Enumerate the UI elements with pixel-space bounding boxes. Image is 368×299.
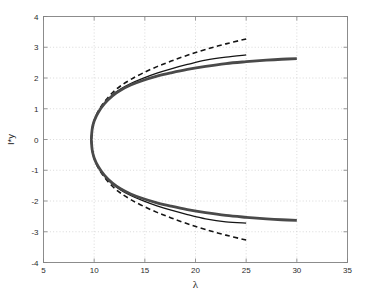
figure-container: 5101520253035 -4-3-2-101234 λ I*y <box>0 0 368 299</box>
x-tick-label: 30 <box>292 266 301 275</box>
x-tick-label: 10 <box>90 266 99 275</box>
y-tick-label: 0 <box>34 136 39 145</box>
y-tick-label: -4 <box>31 259 39 268</box>
chart-canvas: 5101520253035 -4-3-2-101234 λ I*y <box>0 0 368 299</box>
y-tick-label: 4 <box>34 13 39 22</box>
y-tick-label: -2 <box>31 197 39 206</box>
y-tick-label: -1 <box>31 166 39 175</box>
x-tick-label: 15 <box>140 266 149 275</box>
x-tick-label: 5 <box>41 266 46 275</box>
y-tick-label: -3 <box>31 228 39 237</box>
x-axis-title: λ <box>193 278 199 290</box>
y-tick-label: 2 <box>34 74 39 83</box>
x-tick-label: 20 <box>191 266 200 275</box>
y-axis-title: I*y <box>5 134 16 145</box>
y-tick-label: 3 <box>34 43 39 52</box>
y-tick-label: 1 <box>34 105 39 114</box>
x-tick-label: 35 <box>343 266 352 275</box>
x-tick-label: 25 <box>242 266 251 275</box>
